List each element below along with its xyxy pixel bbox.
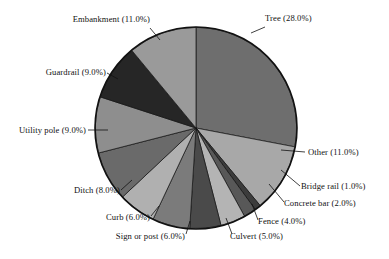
slice-label-bridge-rail: Bridge rail (1.0%) <box>301 181 366 191</box>
slice-label-concrete-bar: Concrete bar (2.0%) <box>284 198 356 208</box>
slice-label-other: Other (11.0%) <box>308 147 359 157</box>
slice-label-ditch: Ditch (8.0%) <box>38 185 120 195</box>
slice-label-guardrail: Guardrail (9.0%) <box>14 67 106 77</box>
slice-label-sign-or-post: Sign or post (6.0%) <box>74 231 185 241</box>
slice-label-utility-pole: Utility pole (9.0%) <box>2 125 86 135</box>
pie-chart-figure: Tree (28.0%) Embankment (11.0%) Guardrai… <box>0 0 389 259</box>
slice-label-culvert: Culvert (5.0%) <box>230 231 283 241</box>
slice-label-embankment: Embankment (11.0%) <box>36 14 150 24</box>
slice-label-tree: Tree (28.0%) <box>265 13 312 23</box>
slice-label-fence: Fence (4.0%) <box>258 216 306 226</box>
pie-slice <box>196 27 297 146</box>
slice-label-curb: Curb (6.0%) <box>66 212 150 222</box>
pie-slices-group <box>95 27 296 228</box>
leader-line-tree <box>251 27 265 33</box>
